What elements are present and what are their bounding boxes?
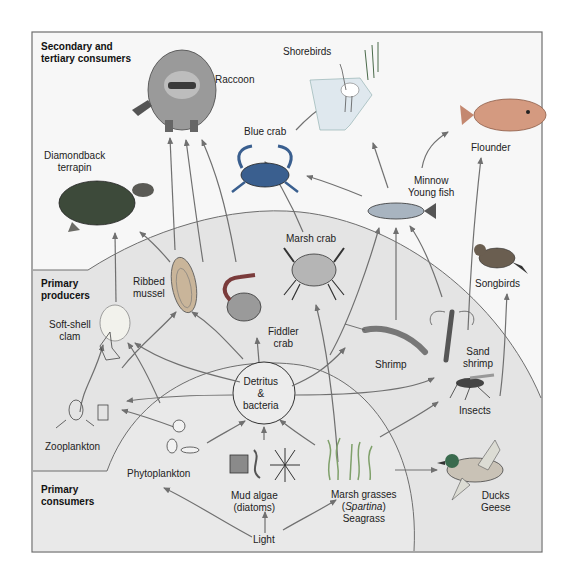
label-flounder: Flounder bbox=[471, 142, 510, 154]
label-line: Diamondback bbox=[44, 150, 105, 162]
label-soft-shell-clam: Soft-shell clam bbox=[49, 319, 91, 343]
label-ducks-geese: Ducks Geese bbox=[481, 490, 510, 514]
label-marsh-crab: Marsh crab bbox=[286, 233, 336, 245]
label-line: Fiddler bbox=[268, 326, 299, 338]
paren: ) bbox=[382, 501, 385, 512]
label-line: Seagrass bbox=[331, 513, 397, 525]
label-light: Light bbox=[253, 534, 275, 546]
label-sand-shrimp: Sand shrimp bbox=[463, 346, 493, 370]
label-line: Mud algae bbox=[231, 490, 278, 502]
label-songbirds: Songbirds bbox=[475, 278, 520, 290]
label-minnow: Minnow Young fish bbox=[408, 175, 454, 199]
label-terrapin: Diamondback terrapin bbox=[44, 150, 105, 174]
label-mud-algae: Mud algae (diatoms) bbox=[231, 490, 278, 514]
label-line: Ribbed bbox=[133, 276, 165, 288]
label-phytoplankton: Phytoplankton bbox=[127, 468, 190, 480]
label-line: bacteria bbox=[243, 400, 279, 412]
zone-label-line: Secondary and bbox=[41, 41, 131, 53]
zone-label-line: producers bbox=[41, 290, 90, 302]
label-line: Detritus bbox=[243, 376, 279, 388]
label-line: clam bbox=[49, 331, 91, 343]
zone-label-primary-consumers: Primary consumers bbox=[41, 484, 94, 508]
label-line: Marsh grasses bbox=[331, 489, 397, 501]
soft-shell-clam-icon bbox=[100, 305, 130, 341]
label-marsh-grasses: Marsh grasses (Spartina) Seagrass bbox=[331, 489, 397, 525]
zone-label-secondary-tertiary: Secondary and tertiary consumers bbox=[41, 41, 131, 65]
zone-label-line: tertiary consumers bbox=[41, 53, 131, 65]
genus-name: Spartina bbox=[345, 501, 382, 512]
label-line: shrimp bbox=[463, 358, 493, 370]
label-line: (Spartina) bbox=[331, 501, 397, 513]
label-insects: Insects bbox=[459, 405, 491, 417]
label-line: Sand bbox=[463, 346, 493, 358]
label-shorebirds: Shorebirds bbox=[283, 46, 331, 58]
label-line: (diatoms) bbox=[231, 502, 278, 514]
label-line: crab bbox=[268, 338, 299, 350]
label-ribbed-mussel: Ribbed mussel bbox=[133, 276, 165, 300]
zone-label-primary-producers: Primary producers bbox=[41, 278, 90, 302]
label-line: Young fish bbox=[408, 187, 454, 199]
zone-label-line: consumers bbox=[41, 496, 94, 508]
label-line: terrapin bbox=[44, 162, 105, 174]
label-line: Minnow bbox=[408, 175, 454, 187]
label-line: & bbox=[243, 388, 279, 400]
zone-label-line: Primary bbox=[41, 484, 94, 496]
label-blue-crab: Blue crab bbox=[244, 126, 286, 138]
label-line: Ducks bbox=[481, 490, 510, 502]
label-line: Geese bbox=[481, 502, 510, 514]
label-raccoon: Raccoon bbox=[215, 74, 254, 86]
label-line: Soft-shell bbox=[49, 319, 91, 331]
label-fiddler-crab: Fiddler crab bbox=[268, 326, 299, 350]
label-line: mussel bbox=[133, 288, 165, 300]
zone-label-line: Primary bbox=[41, 278, 90, 290]
label-zooplankton: Zooplankton bbox=[45, 441, 100, 453]
label-shrimp: Shrimp bbox=[375, 359, 407, 371]
label-detritus-bacteria: Detritus & bacteria bbox=[243, 376, 279, 412]
